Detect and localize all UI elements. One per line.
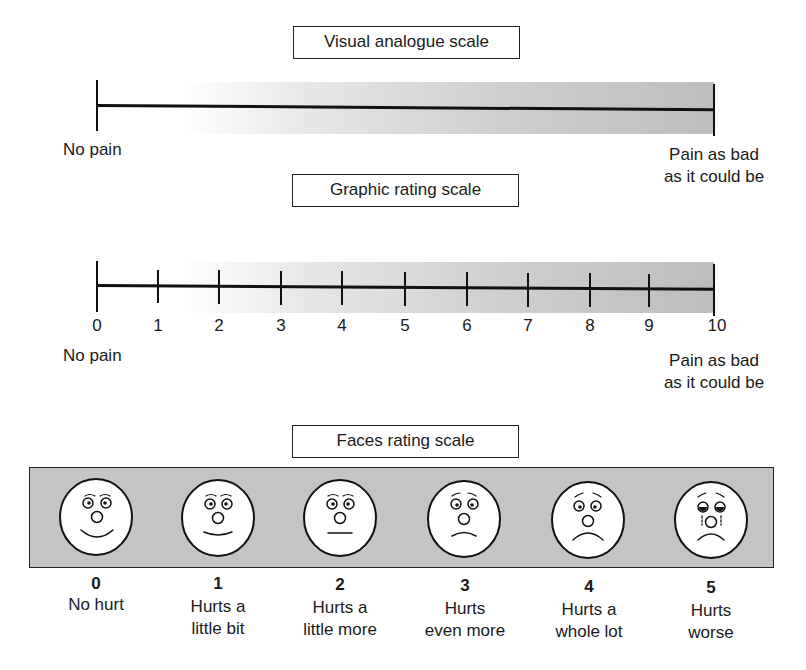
face-0-big-smile-icon xyxy=(60,479,132,555)
face-0-label: No hurt xyxy=(68,594,124,616)
face-4-label-line1: Hurts a xyxy=(555,599,622,621)
face-2-label-line1: Hurts a xyxy=(303,597,377,619)
face-4-frown-icon xyxy=(552,482,624,558)
face-5-crying-icon xyxy=(675,482,747,558)
face-3-label-line2: even more xyxy=(425,620,505,642)
face-1-value: 1 xyxy=(213,574,222,594)
face-3-slight-frown-icon xyxy=(428,481,500,557)
faces-svg xyxy=(0,0,806,670)
face-2-label: Hurts a little more xyxy=(303,597,377,641)
face-3-label: Hurts even more xyxy=(425,598,505,642)
face-4-label-line2: whole lot xyxy=(555,621,622,643)
face-5-label-line1: Hurts xyxy=(688,600,733,622)
face-5-label: Hurts worse xyxy=(688,600,733,644)
face-2-neutral-icon xyxy=(304,480,376,556)
face-2-value: 2 xyxy=(335,575,344,595)
face-0-label-line1: No hurt xyxy=(68,594,124,616)
face-0-value: 0 xyxy=(91,574,100,594)
face-4-label: Hurts a whole lot xyxy=(555,599,622,643)
face-1-slight-smile-icon xyxy=(182,480,254,556)
face-1-label: Hurts a little bit xyxy=(191,596,246,640)
face-2-label-line2: little more xyxy=(303,619,377,641)
face-3-value: 3 xyxy=(460,576,469,596)
face-5-value: 5 xyxy=(706,578,715,598)
face-4-value: 4 xyxy=(584,577,593,597)
face-1-label-line2: little bit xyxy=(191,618,246,640)
face-5-label-line2: worse xyxy=(688,622,733,644)
face-1-label-line1: Hurts a xyxy=(191,596,246,618)
face-3-label-line1: Hurts xyxy=(425,598,505,620)
